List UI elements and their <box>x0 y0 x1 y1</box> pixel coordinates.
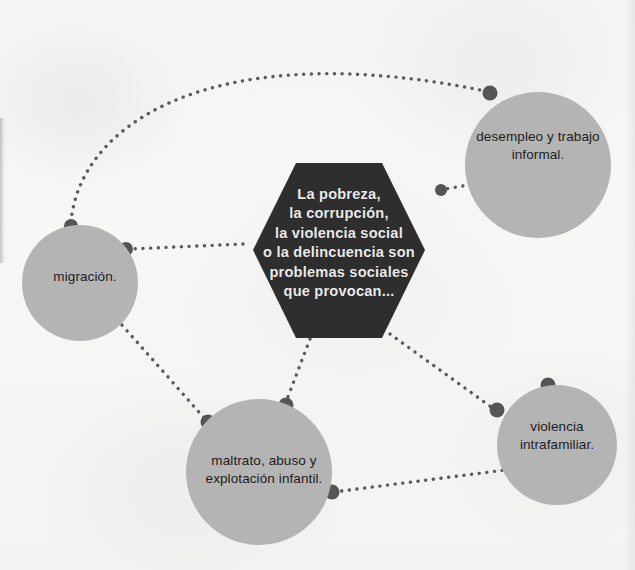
endpoint-dot-hexagon-right <box>435 184 447 196</box>
node-circle-migracion[interactable] <box>22 225 138 341</box>
node-circle-violencia[interactable] <box>497 385 617 505</box>
connector-migracion-maltrato <box>122 325 206 420</box>
endpoint-dot-desempleo-topleft <box>483 86 498 101</box>
diagram-page: La pobreza, la corrupción, la violencia … <box>0 0 635 570</box>
central-hexagon-text: La pobreza, la corrupción, la violencia … <box>253 185 425 301</box>
connector-maltrato-violencia <box>334 469 513 492</box>
connector-hexagon-migracion <box>130 244 243 249</box>
node-circle-maltrato[interactable] <box>186 399 332 545</box>
connector-hexagon-violencia <box>390 334 494 409</box>
endpoint-dot-violencia-topleft <box>490 403 505 418</box>
node-circle-desempleo[interactable] <box>465 92 611 238</box>
connector-hexagon-maltrato <box>286 339 310 402</box>
